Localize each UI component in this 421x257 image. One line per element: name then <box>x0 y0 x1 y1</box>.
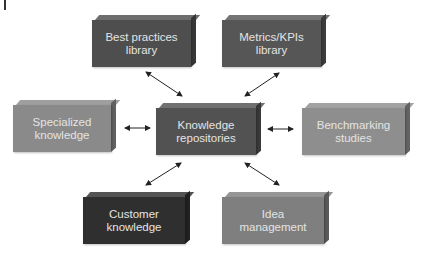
box-front-face: Benchmarking studies <box>302 108 405 155</box>
box-side-face <box>191 14 196 67</box>
box-side-face <box>111 99 116 152</box>
node-best-practices-library: Best practices library <box>92 15 196 67</box>
box-front-face: Metrics/KPIs library <box>222 20 321 67</box>
node-metrics-kpis-library: Metrics/KPIs library <box>222 15 326 67</box>
arrow-idea <box>245 163 279 185</box>
node-label: Benchmarking studies <box>317 119 391 145</box>
box-front-face: Knowledge repositories <box>156 108 256 155</box>
node-idea-management: Idea management <box>222 192 329 244</box>
node-label: Knowledge repositories <box>176 119 235 145</box>
node-specialized-knowledge: Specialized knowledge <box>13 100 116 152</box>
box-front-face: Best practices library <box>92 20 191 67</box>
box-front-face: Specialized knowledge <box>13 105 111 152</box>
node-knowledge-repositories: Knowledge repositories <box>156 103 261 155</box>
arrow-best-practices <box>146 72 182 96</box>
arrow-metrics <box>245 73 279 96</box>
box-front-face: Idea management <box>222 197 324 244</box>
box-side-face <box>185 191 190 244</box>
node-label: Specialized knowledge <box>33 116 92 142</box>
box-side-face <box>405 102 410 155</box>
node-label: Idea management <box>239 208 306 234</box>
node-label: Metrics/KPIs library <box>239 31 304 57</box>
node-label: Best practices library <box>105 31 177 57</box>
box-side-face <box>324 191 329 244</box>
box-side-face <box>256 102 261 155</box>
box-side-face <box>321 14 326 67</box>
box-front-face: Customer knowledge <box>83 197 185 244</box>
node-customer-knowledge: Customer knowledge <box>83 192 190 244</box>
node-benchmarking-studies: Benchmarking studies <box>302 103 410 155</box>
node-label: Customer knowledge <box>107 208 162 234</box>
arrow-customer <box>146 163 181 185</box>
